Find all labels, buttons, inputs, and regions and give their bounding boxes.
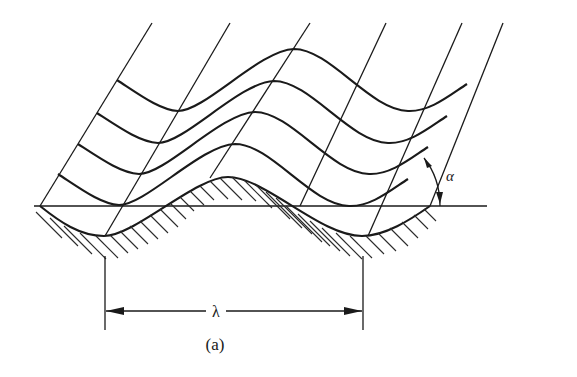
dimension-arrowhead-left: [106, 307, 124, 315]
wave-layers: [58, 49, 467, 206]
dimension-arrowhead-right: [344, 307, 362, 315]
wave-over-wavy-bed-diagram: α λ (a): [0, 0, 577, 377]
slanted-line-6: [430, 23, 503, 206]
angle-arrowhead-top: [424, 158, 432, 168]
slanted-line-3: [210, 23, 310, 178]
angle-alpha-label: α: [446, 168, 455, 184]
wave-layer-1: [117, 49, 467, 111]
wave-layer-2: [97, 81, 447, 143]
wave-layer-3: [78, 112, 428, 174]
slanted-line-1: [40, 23, 152, 206]
wave-layer-4: [58, 144, 408, 206]
wavelength-label: λ: [212, 303, 220, 320]
wavelength-dimension: λ: [105, 256, 363, 330]
angle-arrowhead-bottom: [436, 192, 443, 204]
slanted-line-5: [368, 23, 462, 236]
slanted-line-4: [300, 23, 386, 206]
figure-caption: (a): [206, 335, 225, 354]
